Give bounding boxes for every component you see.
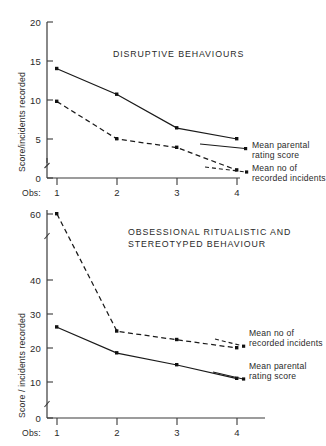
bottom-legend-marker-incidents (242, 345, 245, 348)
top-chart-title: DISRUPTIVE BEHAVIOURS (113, 49, 244, 59)
top-x-ticks (57, 178, 237, 185)
bottom-legend-leader-parental (213, 372, 243, 379)
top-ytick-15: 15 (30, 56, 41, 67)
chart-panel-obsessional-ritualistic: Score / incidents recorded 0 10 20 30 40 (0, 196, 326, 446)
bottom-ytick-40: 40 (30, 275, 41, 286)
top-legend-marker-parental (244, 147, 247, 150)
top-y-axis-label: Score/incidents recorded (17, 72, 27, 172)
top-legend-marker-incidents (245, 170, 248, 173)
bottom-legend-incidents-line1: Mean no of (249, 328, 294, 338)
top-legend-leader-parental (200, 144, 245, 149)
top-legend-leader-incidents (205, 167, 246, 172)
top-series-recorded-incidents-markers (55, 100, 238, 172)
bottom-xtick-1: 1 (54, 427, 59, 438)
bottom-chart-title-line1: OBSESSIONAL RITUALISTIC AND (128, 227, 291, 237)
top-legend-parental-line2: rating score (252, 150, 299, 160)
bottom-chart-svg: Score / incidents recorded 0 10 20 30 40 (0, 196, 326, 446)
bottom-y-ticks (47, 214, 53, 418)
bottom-series-parental-rating-line (57, 327, 237, 378)
bottom-chart-title-line2: STEREOTYPED BEHAVIOUR (128, 239, 266, 249)
top-series-parental-rating-line (57, 69, 237, 139)
bottom-legend-leader-incidents (215, 339, 243, 346)
chart-panel-disruptive-behaviours: Score/incidents recorded 0 5 10 15 20 (0, 0, 326, 202)
bottom-series-parental-rating-markers (55, 325, 238, 380)
top-ytick-10: 10 (30, 95, 41, 106)
top-ytick-0: 0 (36, 173, 41, 184)
bottom-legend-parental-line2: rating score (249, 371, 296, 381)
bottom-legend-parental-line1: Mean parental (249, 361, 307, 371)
bottom-legend-parental-rating: Mean parental rating score (249, 361, 307, 381)
figure-two-line-charts: Score/incidents recorded 0 5 10 15 20 (0, 0, 326, 446)
bottom-xtick-2: 2 (114, 427, 119, 438)
top-series-parental-rating-markers (55, 67, 238, 141)
top-legend-parental-line1: Mean parental (252, 140, 310, 150)
bottom-legend-marker-parental (242, 377, 245, 380)
top-chart-svg: Score/incidents recorded 0 5 10 15 20 (0, 0, 326, 202)
top-ytick-5: 5 (36, 134, 41, 145)
bottom-ytick-20: 20 (30, 343, 41, 354)
bottom-xtick-3: 3 (174, 427, 179, 438)
bottom-ytick-30: 30 (30, 309, 41, 320)
bottom-y-axis-label: Score / incidents recorded (17, 313, 27, 418)
top-legend-recorded-incidents: Mean no of recorded incidents (252, 163, 326, 183)
top-legend-incidents-line2: recorded incidents (252, 173, 326, 183)
bottom-ytick-10: 10 (30, 377, 41, 388)
top-ytick-20: 20 (30, 17, 41, 28)
bottom-legend-recorded-incidents: Mean no of recorded incidents (249, 328, 323, 348)
bottom-x-ticks (57, 418, 237, 425)
bottom-xtick-4: 4 (234, 427, 239, 438)
bottom-ytick-60: 60 (30, 209, 41, 220)
top-legend-parental-rating: Mean parental rating score (252, 140, 310, 160)
top-legend-incidents-line1: Mean no of (252, 163, 297, 173)
top-y-ticks (47, 22, 53, 178)
bottom-x-axis-label: Obs: (22, 428, 41, 438)
bottom-legend-incidents-line2: recorded incidents (249, 338, 323, 348)
bottom-ytick-0: 0 (36, 413, 41, 424)
